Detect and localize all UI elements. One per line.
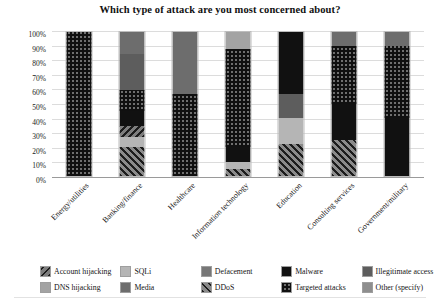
bar-segment-malware[interactable]	[279, 32, 304, 94]
x-axis-tick-label: Education	[274, 181, 303, 210]
y-axis-tick-label: 50%	[2, 104, 46, 112]
legend-swatch-targeted	[281, 282, 292, 293]
x-axis-tick-label: Healthcare	[166, 181, 197, 212]
bar-segment-dns[interactable]	[225, 32, 250, 49]
legend-item[interactable]: Other (specify)	[362, 279, 440, 295]
bar-segment-targeted[interactable]	[172, 94, 197, 176]
legend-item[interactable]: DDoS	[201, 279, 279, 295]
legend-swatch-media	[120, 282, 131, 293]
legend-label: Malware	[295, 267, 323, 276]
bar-segment-targeted[interactable]	[66, 32, 91, 176]
bar-segment-media[interactable]	[119, 32, 144, 54]
legend-swatch-ddos	[201, 282, 212, 293]
y-axis: 100%90%80%70%60%50%40%30%20%10%0%	[0, 24, 50, 184]
y-axis-tick-label: 20%	[2, 148, 46, 156]
legend-label: Media	[134, 283, 154, 292]
bar-segment-media[interactable]	[385, 32, 410, 46]
bar-segment-sqli[interactable]	[279, 118, 304, 144]
bar-slot	[105, 31, 158, 177]
x-axis-tick-label: Consulting services	[306, 181, 357, 232]
stacked-bar-chart: Which type of attack are you most concer…	[0, 0, 440, 303]
bar-segment-ddos[interactable]	[279, 144, 304, 176]
legend-item[interactable]: Account hijacking	[40, 263, 118, 279]
bar-segment-targeted[interactable]	[225, 49, 250, 147]
legend-item[interactable]: Malware	[281, 263, 359, 279]
chart-title: Which type of attack are you most concer…	[0, 4, 440, 15]
legend-item[interactable]: SQLi	[120, 263, 198, 279]
bar-segment-malware[interactable]	[119, 111, 144, 125]
bar-segment-sqli[interactable]	[225, 162, 250, 169]
bar-segment-targeted[interactable]	[385, 46, 410, 118]
bar-slot	[371, 31, 424, 177]
x-axis-labels: Energy/utilitiesBanking/financeHealthcar…	[52, 179, 424, 253]
legend-swatch-defacement	[201, 266, 212, 277]
stacked-bar[interactable]	[171, 31, 198, 177]
stacked-bar[interactable]	[384, 31, 411, 177]
stacked-bar[interactable]	[224, 31, 251, 177]
bar-slot	[158, 31, 211, 177]
legend-swatch-sqli	[120, 266, 131, 277]
x-axis-tick-label: Banking/finance	[100, 181, 144, 225]
y-axis-tick-label: 0%	[2, 177, 46, 185]
chart-legend: Account hijackingDNS hijackingSQLiMediaD…	[40, 263, 440, 297]
legend-item[interactable]: Illegitimate access	[362, 263, 440, 279]
y-axis-tick-label: 10%	[2, 162, 46, 170]
bar-segment-sqli[interactable]	[119, 137, 144, 147]
bar-segment-targeted[interactable]	[119, 90, 144, 112]
legend-label: Account hijacking	[54, 267, 111, 276]
bar-segment-malware[interactable]	[332, 104, 357, 140]
stacked-bar[interactable]	[331, 31, 358, 177]
legend-item[interactable]: Media	[120, 279, 198, 295]
bar-group	[52, 31, 424, 177]
y-axis-tick-label: 90%	[2, 46, 46, 54]
legend-label: DNS hijacking	[54, 283, 101, 292]
stacked-bar[interactable]	[65, 31, 92, 177]
gridline	[52, 177, 424, 178]
legend-label: DDoS	[215, 283, 235, 292]
y-axis-tick-label: 40%	[2, 119, 46, 127]
bar-segment-malware[interactable]	[225, 147, 250, 161]
bar-segment-malware[interactable]	[385, 118, 410, 176]
y-axis-tick-label: 70%	[2, 75, 46, 83]
bar-segment-targeted[interactable]	[332, 46, 357, 104]
legend-swatch-account	[40, 266, 51, 277]
legend-divider	[14, 297, 426, 298]
y-axis-tick-label: 60%	[2, 89, 46, 97]
legend-label: Other (specify)	[376, 283, 423, 292]
bar-segment-media[interactable]	[332, 32, 357, 46]
x-axis-tick-label: Energy/utilities	[50, 181, 91, 222]
legend-swatch-dns	[40, 282, 51, 293]
legend-label: Defacement	[215, 267, 253, 276]
bar-segment-ddos[interactable]	[332, 140, 357, 176]
legend-swatch-other	[362, 282, 373, 293]
legend-label: SQLi	[134, 267, 151, 276]
bar-segment-illegit[interactable]	[279, 94, 304, 118]
stacked-bar[interactable]	[278, 31, 305, 177]
y-axis-tick-label: 30%	[2, 133, 46, 141]
bar-segment-account[interactable]	[119, 126, 144, 138]
bar-segment-illegit[interactable]	[119, 54, 144, 90]
legend-label: Targeted attacks	[295, 283, 346, 292]
legend-item[interactable]: Defacement	[201, 263, 279, 279]
bar-segment-media[interactable]	[172, 32, 197, 94]
y-axis-tick-label: 100%	[2, 31, 46, 39]
bar-segment-ddos[interactable]	[225, 169, 250, 176]
legend-label: Illegitimate access	[376, 267, 434, 276]
y-axis-tick-label: 80%	[2, 60, 46, 68]
bar-slot	[265, 31, 318, 177]
stacked-bar[interactable]	[118, 31, 145, 177]
legend-item[interactable]: Targeted attacks	[281, 279, 359, 295]
bar-segment-ddos[interactable]	[119, 147, 144, 176]
bar-slot	[52, 31, 105, 177]
x-axis-tick-label: Information technology	[190, 181, 250, 241]
legend-swatch-malware	[281, 266, 292, 277]
x-axis-tick-label: Government/military	[356, 181, 410, 235]
plot-area	[52, 31, 424, 177]
bar-slot	[318, 31, 371, 177]
bar-slot	[211, 31, 264, 177]
legend-item[interactable]: DNS hijacking	[40, 279, 118, 295]
legend-swatch-illegit	[362, 266, 373, 277]
